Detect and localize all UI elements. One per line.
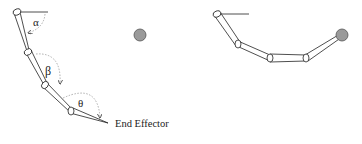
link-3 (270, 54, 306, 62)
robot-arm-diagram: α β θ End Effector (0, 0, 362, 144)
joint-4 (68, 107, 74, 115)
end-effector-label: End Effector (115, 118, 169, 129)
link-2 (238, 41, 270, 61)
theta-label: θ (78, 97, 83, 109)
alpha-label: α (33, 16, 39, 28)
beta-label: β (45, 64, 51, 78)
link-4-end (70, 108, 108, 123)
joint-4 (303, 54, 309, 62)
target-ball (336, 29, 348, 41)
link-2 (26, 50, 47, 85)
joint-2 (235, 40, 241, 48)
link-1 (14, 12, 29, 51)
target-ball (134, 29, 146, 41)
right-arm-figure (212, 10, 348, 62)
left-arm-figure: α β θ End Effector (12, 8, 169, 129)
joint-3 (267, 54, 273, 62)
